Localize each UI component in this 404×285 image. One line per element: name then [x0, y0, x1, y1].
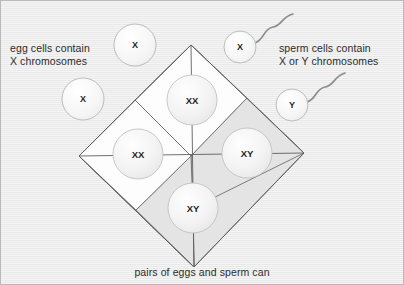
genetics-punnett-square-figure: XX XX XY XY X X X Y egg cells contain	[0, 0, 404, 285]
sperm-cells-caption: sperm cells contain X or Y chromosomes	[279, 42, 378, 68]
offspring-label-top: XX	[186, 95, 199, 106]
egg-cell-label-2: X	[80, 94, 86, 104]
sperm-caption-line-2: X or Y chromosomes	[279, 55, 378, 68]
sperm-tail-y	[307, 73, 345, 102]
egg-caption-line-1: egg cells contain	[10, 42, 90, 55]
bottom-caption: pairs of eggs and sperm can	[1, 266, 403, 279]
egg-cell-label-1: X	[132, 40, 138, 50]
offspring-label-left: XX	[132, 149, 145, 160]
offspring-label-bottom: XY	[187, 203, 200, 214]
egg-cells-caption: egg cells contain X chromosomes	[10, 42, 90, 68]
offspring-label-right: XY	[241, 148, 254, 159]
sperm-tail-x	[255, 14, 293, 43]
egg-caption-line-2: X chromosomes	[10, 55, 90, 68]
sperm-cell-label-y: Y	[289, 100, 295, 110]
sperm-caption-line-1: sperm cells contain	[279, 42, 378, 55]
sperm-cell-label-x: X	[237, 42, 243, 52]
